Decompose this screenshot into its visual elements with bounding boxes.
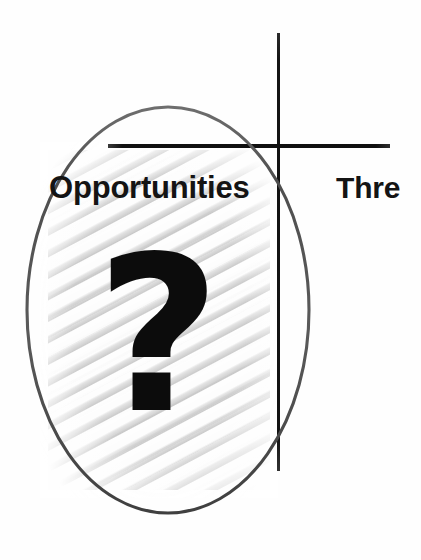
swot-diagram-canvas: ? Opportunities Thre <box>0 0 421 560</box>
quadrant-label-threats: Thre <box>336 173 400 203</box>
quadrant-label-opportunities: Opportunities <box>49 172 250 203</box>
question-mark-symbol: ? <box>96 228 206 428</box>
